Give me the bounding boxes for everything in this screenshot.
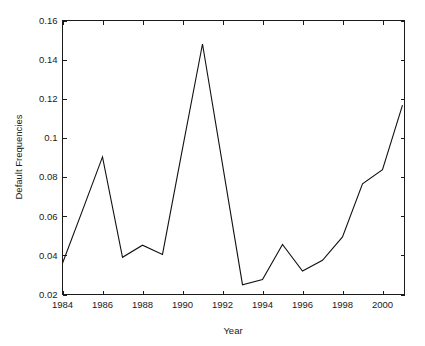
x-tick-label: 1988 [132,299,153,310]
y-tick-label: 0.08 [39,171,58,182]
x-axis-tick-labels: 198419861988199019921994199619982000 [52,299,393,310]
y-tick-label: 0.1 [44,132,57,143]
x-tick-label: 1986 [92,299,113,310]
chart-figure: 198419861988199019921994199619982000 0.0… [0,0,425,346]
data-series-line [63,44,403,285]
x-tick-label: 1994 [252,299,273,310]
y-tick-label: 0.04 [39,250,58,261]
x-tick-label: 2000 [372,299,393,310]
y-axis-ticks [63,22,405,296]
y-tick-label: 0.16 [39,15,58,26]
y-tick-label: 0.12 [39,93,58,104]
x-tick-label: 1996 [292,299,313,310]
x-axis-ticks [64,21,384,295]
y-axis-tick-labels: 0.020.040.060.080.10.120.140.16 [39,15,58,300]
x-tick-label: 1992 [212,299,233,310]
x-axis-title: Year [223,325,242,336]
x-tick-label: 1998 [332,299,353,310]
y-tick-label: 0.06 [39,211,58,222]
y-tick-label: 0.02 [39,289,58,300]
y-axis-title: Default Frequencies [13,114,24,199]
x-tick-label: 1984 [52,299,73,310]
x-tick-label: 1990 [172,299,193,310]
line-chart: 198419861988199019921994199619982000 0.0… [0,0,425,346]
y-tick-label: 0.14 [39,54,58,65]
plot-frame [63,21,405,295]
